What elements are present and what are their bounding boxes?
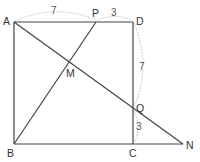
label-q: Q — [136, 102, 144, 114]
label-a: A — [3, 15, 10, 27]
label-c: C — [129, 147, 137, 159]
measure-pd: 3 — [111, 7, 117, 18]
label-m: M — [66, 67, 75, 79]
geometry-diagram: A P D M Q B C N 7 3 7 3 — [0, 0, 200, 162]
measure-ap: 7 — [51, 5, 57, 16]
measure-qc: 3 — [136, 121, 142, 132]
line-bp — [14, 22, 96, 144]
label-n: N — [186, 139, 194, 151]
measure-dq: 7 — [139, 61, 145, 72]
line-an — [14, 22, 183, 144]
label-d: D — [136, 15, 144, 27]
label-b: B — [7, 147, 14, 159]
label-p: P — [92, 7, 99, 19]
